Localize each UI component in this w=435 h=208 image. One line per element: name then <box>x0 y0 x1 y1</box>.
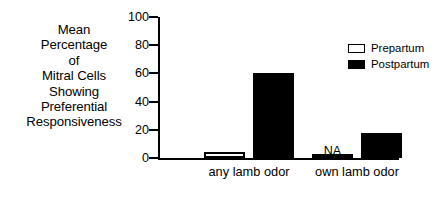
y-tick-mark-100 <box>149 16 158 18</box>
legend-entry-postpartum: Postpartum <box>348 58 429 71</box>
y-axis-line <box>158 17 160 160</box>
y-tick-mark-60 <box>149 72 158 74</box>
legend-label-prepartum: Prepartum <box>371 43 424 54</box>
y-tick-label-60: 60 <box>103 67 149 80</box>
legend: Prepartum Postpartum <box>348 42 429 74</box>
y-tick-label-40: 40 <box>103 96 149 109</box>
x-category-label-any-lamb-odor: any lamb odor <box>189 165 309 179</box>
legend-label-postpartum: Postpartum <box>371 59 429 70</box>
filled-square-icon <box>348 60 365 69</box>
plot-area: 100 80 60 40 20 0 NA <box>0 0 435 208</box>
na-annotation: NA <box>312 145 353 158</box>
bar-chart-figure: Mean Percentage of Mitral Cells Showing … <box>0 0 435 208</box>
legend-entry-prepartum: Prepartum <box>348 42 429 55</box>
bar-postpartum-any-lamb-odor <box>253 73 294 158</box>
y-tick-label-20: 20 <box>103 124 149 137</box>
y-tick-label-100: 100 <box>103 11 149 24</box>
open-square-icon <box>348 44 365 53</box>
y-tick-mark-80 <box>149 44 158 46</box>
y-tick-mark-0 <box>149 157 158 159</box>
x-axis-line <box>158 158 399 160</box>
bar-prepartum-any-lamb-odor <box>204 152 245 158</box>
x-category-label-own-lamb-odor: own lamb odor <box>297 165 417 179</box>
y-tick-label-0: 0 <box>103 152 149 165</box>
y-tick-label-80: 80 <box>103 39 149 52</box>
y-tick-mark-20 <box>149 129 158 131</box>
y-tick-mark-40 <box>149 101 158 103</box>
bar-postpartum-own-lamb-odor <box>361 133 402 158</box>
